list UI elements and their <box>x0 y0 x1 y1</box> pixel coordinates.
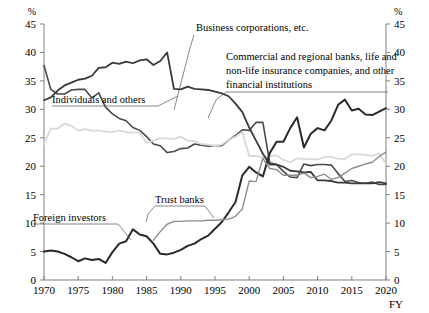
y-tick-label-left: 45 <box>25 18 37 30</box>
financial-label-3: financial institutions <box>226 79 312 90</box>
y-tick-label-right: 35 <box>394 75 406 87</box>
individuals-leader-2 <box>158 96 178 106</box>
chart-container: 005510101515202025253030353540404545%%19… <box>0 0 429 313</box>
foreign-leader <box>118 224 131 240</box>
business-label: Business corporations, etc. <box>196 22 309 33</box>
x-axis-label: FY <box>389 298 403 310</box>
y-tick-label-right: 10 <box>394 217 406 229</box>
y-tick-label-left: 30 <box>25 103 37 115</box>
x-tick-label: 2010 <box>307 284 330 296</box>
y-tick-label-right: 45 <box>394 18 406 30</box>
y-tick-label-left: 35 <box>25 75 37 87</box>
y-tick-label-left: 5 <box>31 246 37 258</box>
business-leader <box>174 35 194 110</box>
trust-leader <box>205 206 214 218</box>
y-tick-label-right: 15 <box>394 189 406 201</box>
series-line-1 <box>44 124 386 164</box>
annotation-individuals: Individuals and others <box>52 94 178 106</box>
x-tick-label: 2005 <box>272 284 295 296</box>
y-unit-right: % <box>394 6 402 17</box>
x-tick-label: 1975 <box>67 284 90 296</box>
x-tick-label: 1985 <box>136 284 159 296</box>
y-tick-label-right: 25 <box>394 132 406 144</box>
x-tick-label: 1970 <box>33 284 56 296</box>
y-unit-left: % <box>28 6 36 17</box>
individuals-label: Individuals and others <box>52 94 145 105</box>
series-lines <box>44 52 386 262</box>
y-tick-label-left: 40 <box>25 46 37 58</box>
annotation-trust: Trust banks <box>146 194 214 222</box>
x-tick-label: 2020 <box>375 284 398 296</box>
x-tick-label: 1995 <box>204 284 227 296</box>
x-tick-label: 1980 <box>101 284 124 296</box>
y-tick-label-left: 20 <box>25 160 37 172</box>
y-tick-label-right: 5 <box>394 246 400 258</box>
y-tick-label-right: 20 <box>394 160 406 172</box>
annotation-financial: Commercial and regional banks, life and … <box>208 51 398 118</box>
x-tick-label: 2015 <box>341 284 364 296</box>
y-tick-label-left: 25 <box>25 132 37 144</box>
x-tick-label: 2000 <box>238 284 261 296</box>
annotation-labels: Individuals and others Business corporat… <box>33 22 398 240</box>
financial-leader <box>208 92 226 118</box>
y-tick-label-right: 30 <box>394 103 406 115</box>
shareholding-ratio-line-chart: 005510101515202025253030353540404545%%19… <box>0 0 429 313</box>
trust-leader-2 <box>146 206 155 222</box>
trust-label: Trust banks <box>155 194 204 205</box>
financial-label-1: Commercial and regional banks, life and <box>226 51 398 62</box>
financial-label-2: non-life insurance companies, and other <box>226 65 395 76</box>
y-tick-label-left: 15 <box>25 189 37 201</box>
series-line-0 <box>44 66 386 185</box>
annotation-foreign: Foreign investors <box>33 212 131 240</box>
foreign-label: Foreign investors <box>33 212 106 223</box>
x-tick-label: 1990 <box>170 284 193 296</box>
